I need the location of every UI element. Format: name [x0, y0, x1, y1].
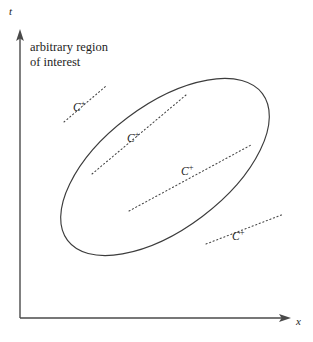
characteristic-label-2-text: C	[127, 132, 135, 144]
region-note-line-2: of interest	[30, 55, 108, 70]
region-of-interest-note: arbitrary region of interest	[30, 40, 108, 70]
characteristic-label-3-text: C	[181, 165, 189, 177]
characteristic-label-2-superscript: +	[135, 129, 140, 139]
characteristic-line-4	[206, 214, 284, 244]
characteristic-label-1-superscript: +	[81, 98, 86, 108]
characteristic-label-4-superscript: +	[240, 227, 245, 237]
spacetime-diagram: t x arbitrary region of interest C+ C+ C…	[0, 0, 313, 342]
characteristic-label-3: C+	[181, 162, 193, 178]
space-axis-label: x	[296, 315, 301, 328]
characteristic-label-1: C+	[73, 98, 85, 114]
characteristic-label-3-superscript: +	[189, 162, 194, 172]
characteristic-label-4: C+	[232, 227, 244, 243]
region-note-line-1: arbitrary region	[30, 40, 108, 55]
characteristic-label-2: C+	[127, 129, 139, 145]
region-of-interest-ellipse	[30, 44, 299, 290]
characteristic-label-1-text: C	[73, 101, 81, 113]
time-axis-label: t	[9, 5, 12, 18]
characteristic-label-4-text: C	[232, 230, 240, 242]
